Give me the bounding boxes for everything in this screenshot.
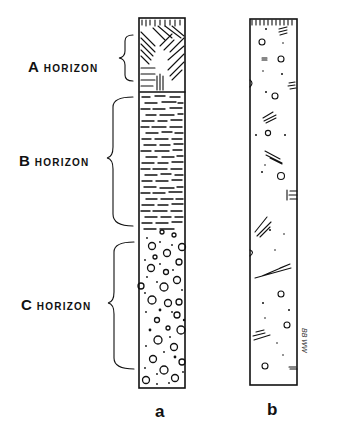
a-horizon-label: AHORIZON [28,58,98,76]
artist-signature: BB WW [301,328,308,353]
brace-b-horizon [107,97,133,226]
a-horizon-pattern [140,20,185,92]
b-horizon-pattern [141,96,183,229]
c-horizon-letter: C [21,296,32,313]
c-horizon-pattern [138,230,186,384]
brace-a-horizon [119,35,133,81]
column-b-caption: b [267,400,277,420]
b-horizon-word: HORIZON [35,157,90,168]
b-horizon-letter: B [19,152,30,169]
a-horizon-word: HORIZON [44,63,99,74]
column-b-dots [255,28,290,356]
brace-c-horizon [108,242,134,369]
c-horizon-word: HORIZON [37,301,92,312]
column-a-caption: a [155,402,164,422]
c-horizon-label: CHORIZON [21,296,91,314]
b-horizon-label: BHORIZON [19,152,89,170]
column-b-pattern [250,20,297,369]
a-horizon-letter: A [28,58,39,75]
column-b-outline [250,19,297,385]
